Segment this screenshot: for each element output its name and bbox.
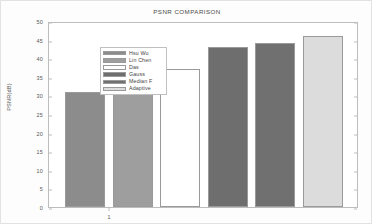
legend-swatch-icon [103, 72, 126, 77]
legend-swatch-icon [103, 58, 126, 63]
legend-item-label: Hsu Wu [129, 50, 149, 57]
bar-gauss[interactable] [208, 47, 248, 207]
y-axis: 05101520253035404550 [1, 22, 48, 208]
chart-title: PSNR COMPARISON [1, 8, 372, 15]
y-axis-tick-mark [354, 134, 357, 135]
y-axis-tick-label: 0 [40, 205, 43, 211]
y-axis-tick-label: 45 [37, 38, 43, 44]
legend-item-label: Adaptive [129, 85, 151, 92]
legend-item[interactable]: Das [103, 64, 164, 71]
y-axis-tick-mark [49, 78, 52, 79]
x-axis-tick-mark [109, 208, 110, 211]
legend-item-label: Das [129, 64, 139, 71]
legend-item[interactable]: Gauss [103, 71, 164, 78]
y-axis-tick-mark [49, 153, 52, 154]
y-axis-tick-mark [354, 78, 357, 79]
y-axis-tick-label: 10 [37, 168, 43, 174]
legend-item[interactable]: Lin Chen [103, 57, 164, 64]
legend-item[interactable]: Hsu Wu [103, 50, 164, 57]
y-axis-tick-mark [49, 60, 52, 61]
y-axis-tick-mark [49, 97, 52, 98]
bar-median-f[interactable] [255, 43, 295, 207]
y-axis-tick-mark [49, 41, 52, 42]
legend-item-label: Median F [129, 78, 152, 85]
y-axis-tick-mark [354, 41, 357, 42]
y-axis-tick-mark [354, 171, 357, 172]
plot-area: Hsu WuLin ChenDasGaussMedian FAdaptive [48, 22, 358, 208]
y-axis-tick-mark [49, 190, 52, 191]
y-axis-tick-mark [49, 116, 52, 117]
chart-figure: PSNR COMPARISON PSNR(dB) 051015202530354… [0, 0, 372, 224]
legend-swatch-icon [103, 51, 126, 56]
legend-item-label: Gauss [129, 71, 145, 78]
bar-hsu-wu[interactable] [65, 92, 105, 207]
y-axis-tick-label: 30 [37, 93, 43, 99]
x-axis: 1 [48, 208, 358, 224]
chart-legend: Hsu WuLin ChenDasGaussMedian FAdaptive [100, 47, 167, 95]
y-axis-tick-mark [354, 60, 357, 61]
y-axis-tick-label: 40 [37, 56, 43, 62]
legend-swatch-icon [103, 65, 126, 70]
bar-lin-chen[interactable] [113, 81, 153, 207]
y-axis-tick-mark [354, 190, 357, 191]
y-axis-tick-label: 5 [40, 186, 43, 192]
bar-adaptive[interactable] [303, 36, 343, 207]
legend-item[interactable]: Adaptive [103, 85, 164, 92]
y-axis-tick-label: 15 [37, 149, 43, 155]
y-axis-tick-label: 20 [37, 131, 43, 137]
y-axis-tick-mark [49, 134, 52, 135]
y-axis-tick-label: 25 [37, 112, 43, 118]
legend-item[interactable]: Median F [103, 78, 164, 85]
y-axis-tick-label: 35 [37, 75, 43, 81]
bars-layer [49, 23, 357, 207]
y-axis-tick-mark [354, 153, 357, 154]
y-axis-tick-mark [354, 116, 357, 117]
y-axis-tick-mark [354, 97, 357, 98]
y-axis-tick-label: 50 [37, 19, 43, 25]
y-axis-tick-mark [49, 23, 52, 24]
legend-item-label: Lin Chen [129, 57, 151, 64]
x-axis-tick-label: 1 [108, 214, 111, 220]
y-axis-tick-mark [354, 23, 357, 24]
legend-swatch-icon [103, 80, 126, 85]
y-axis-tick-mark [49, 171, 52, 172]
legend-swatch-icon [103, 87, 126, 92]
